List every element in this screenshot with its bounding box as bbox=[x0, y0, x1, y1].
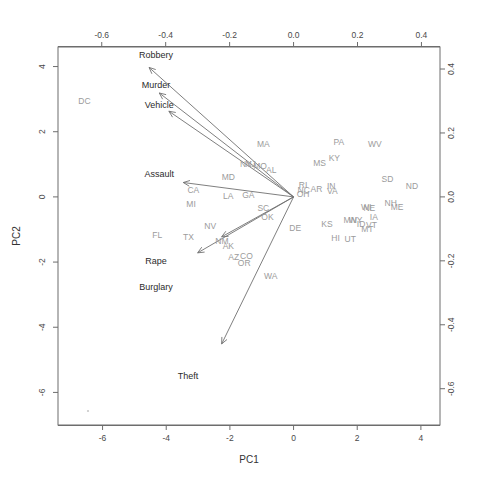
state-point-label: OK bbox=[261, 212, 274, 222]
top-tick-label: 0.2 bbox=[352, 30, 364, 40]
state-point-label: DE bbox=[289, 223, 301, 233]
variable-label: Robbery bbox=[139, 50, 174, 60]
top-tick-label: 0.4 bbox=[416, 30, 428, 40]
state-point-label: AL bbox=[266, 165, 277, 175]
state-point-label: SD bbox=[382, 174, 394, 184]
state-point-label: FL bbox=[152, 230, 162, 240]
state-point-label: OH bbox=[297, 189, 310, 199]
x-axis-title: PC1 bbox=[239, 454, 259, 465]
y-tick-label: 4 bbox=[37, 64, 47, 69]
state-point-label: MD bbox=[222, 172, 235, 182]
y-tick-label: -4 bbox=[37, 323, 47, 331]
y-tick-label: 0 bbox=[37, 194, 47, 199]
state-point-label: KY bbox=[329, 153, 341, 163]
x-tick-label: 2 bbox=[355, 433, 360, 443]
right-tick-label: 0.2 bbox=[446, 127, 456, 139]
state-point-label: VA bbox=[327, 186, 338, 196]
variable-label: Theft bbox=[178, 371, 199, 381]
variable-label: Vehicle bbox=[145, 100, 174, 110]
state-point-label: OR bbox=[238, 258, 251, 268]
figure-background bbox=[0, 0, 497, 480]
state-point-label: MA bbox=[257, 139, 270, 149]
biplot-canvas: -6-4-2024-6-4-2024-0.6-0.4-0.20.00.20.4-… bbox=[0, 0, 497, 480]
state-point-label: TX bbox=[183, 232, 194, 242]
stray-mark bbox=[87, 410, 89, 412]
variable-label: Burglary bbox=[139, 282, 173, 292]
state-point-label: LA bbox=[223, 191, 234, 201]
right-tick-label: 0.4 bbox=[446, 63, 456, 75]
state-point-label: AK bbox=[223, 241, 235, 251]
state-point-label: GA bbox=[242, 190, 255, 200]
y-tick-label: 2 bbox=[37, 129, 47, 134]
right-tick-label: 0.0 bbox=[446, 191, 456, 203]
x-tick-label: 4 bbox=[419, 433, 424, 443]
y-tick-label: -6 bbox=[37, 388, 47, 396]
state-point-label: PA bbox=[333, 137, 344, 147]
state-point-label: ME bbox=[391, 202, 404, 212]
variable-label: Assault bbox=[145, 169, 175, 179]
state-point-label: WA bbox=[264, 271, 278, 281]
top-tick-label: 0.0 bbox=[288, 30, 300, 40]
top-tick-label: -0.2 bbox=[222, 30, 237, 40]
x-tick-label: -6 bbox=[99, 433, 107, 443]
right-tick-label: -0.4 bbox=[446, 317, 456, 332]
state-point-label: MS bbox=[313, 158, 326, 168]
y-tick-label: -2 bbox=[37, 258, 47, 266]
biplot-figure: -6-4-2024-6-4-2024-0.6-0.4-0.20.00.20.4-… bbox=[0, 0, 497, 480]
top-tick-label: -0.4 bbox=[158, 30, 173, 40]
x-tick-label: -2 bbox=[226, 433, 234, 443]
x-tick-label: 0 bbox=[291, 433, 296, 443]
state-point-label: WV bbox=[368, 139, 382, 149]
right-tick-label: -0.2 bbox=[446, 253, 456, 268]
state-point-label: KS bbox=[321, 219, 333, 229]
state-point-label: DC bbox=[78, 96, 90, 106]
right-tick-label: -0.6 bbox=[446, 381, 456, 396]
state-point-label: MI bbox=[186, 199, 195, 209]
state-point-label: HI bbox=[331, 233, 340, 243]
state-point-label: ND bbox=[406, 181, 418, 191]
variable-label: Murder bbox=[142, 80, 171, 90]
state-point-label: AR bbox=[311, 184, 323, 194]
state-point-label: MT bbox=[361, 224, 373, 234]
x-tick-label: -4 bbox=[162, 433, 170, 443]
variable-label: Rape bbox=[145, 256, 167, 266]
state-point-label: CA bbox=[187, 185, 199, 195]
state-point-label: UT bbox=[345, 234, 356, 244]
top-tick-label: -0.6 bbox=[94, 30, 109, 40]
state-point-label: NV bbox=[204, 221, 216, 231]
y-axis-title: PC2 bbox=[11, 226, 22, 246]
